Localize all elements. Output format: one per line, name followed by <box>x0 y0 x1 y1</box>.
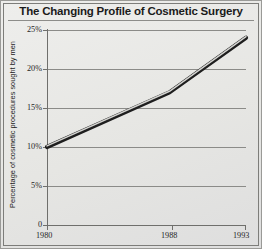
x-tick-mark-1980 <box>47 226 48 230</box>
gridline-25 <box>47 30 246 31</box>
y-tick-label-25: 25% <box>0 25 42 34</box>
y-axis-line <box>47 29 48 226</box>
gridline-15 <box>47 108 246 109</box>
y-tick-mark-25 <box>43 30 47 31</box>
x-tick-label-1980: 1980 <box>36 231 52 240</box>
y-tick-label-0: 0 <box>0 220 42 229</box>
chart-title: The Changing Profile of Cosmetic Surgery <box>8 5 254 17</box>
x-axis-line <box>47 225 246 226</box>
x-tick-label-1993: 1993 <box>233 231 249 240</box>
y-tick-label-10: 10% <box>0 142 42 151</box>
gridline-5 <box>47 186 246 187</box>
y-axis-title: Percentage of cosmetic procedures sought… <box>8 25 17 225</box>
y-tick-mark-5 <box>43 186 47 187</box>
chart-figure: The Changing Profile of Cosmetic Surgery… <box>0 0 262 249</box>
title-divider <box>8 20 254 21</box>
x-tick-label-1988: 1988 <box>161 231 177 240</box>
y-tick-mark-10 <box>43 147 47 148</box>
y-tick-mark-15 <box>43 108 47 109</box>
plot-area <box>47 30 246 225</box>
gridline-20 <box>47 69 246 70</box>
x-tick-mark-1993 <box>245 226 246 230</box>
x-tick-mark-1988 <box>172 226 173 230</box>
y-tick-label-15: 15% <box>0 103 42 112</box>
y-tick-label-20: 20% <box>0 64 42 73</box>
gridline-10 <box>47 147 246 148</box>
y-tick-mark-20 <box>43 69 47 70</box>
y-tick-label-5: 5% <box>0 181 42 190</box>
